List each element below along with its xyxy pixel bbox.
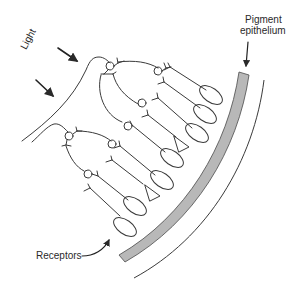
- pigment-label-line1: Pigment: [245, 14, 286, 25]
- synapse-icon: [101, 70, 116, 74]
- ganglion-cell-icon: [84, 170, 92, 178]
- light-arrow-icon: [36, 80, 53, 96]
- ganglion-cell-icon: [138, 99, 146, 107]
- rod-receptor-icon: [147, 167, 176, 193]
- receptors-label: Receptors: [36, 250, 82, 261]
- upper-neuron-group: [100, 58, 171, 130]
- pigment-label-line2: epithelium: [240, 25, 286, 36]
- ganglion-cell-icon: [108, 140, 116, 148]
- ganglion-cell-icon: [65, 132, 73, 140]
- rod-receptor-icon: [110, 214, 139, 240]
- lower-neuron-group: [62, 127, 116, 178]
- inner-membrane-lower: [32, 124, 68, 142]
- retina-diagram: Light Pigment epithelium Receptors: [0, 0, 294, 297]
- inner-membrane-upper: [22, 57, 110, 141]
- cone-receptors: [145, 136, 189, 201]
- pigment-pointer-arrow-icon: [246, 42, 248, 66]
- cone-receptor-icon: [174, 136, 189, 152]
- receptors-pointer-arrow-icon: [82, 240, 109, 256]
- pigment-epithelium-label: Pigment epithelium: [245, 14, 286, 36]
- light-arrows: [36, 48, 77, 96]
- cone-receptor-icon: [145, 185, 160, 201]
- light-arrow-icon: [58, 48, 77, 61]
- receptor-stalks: [84, 63, 206, 216]
